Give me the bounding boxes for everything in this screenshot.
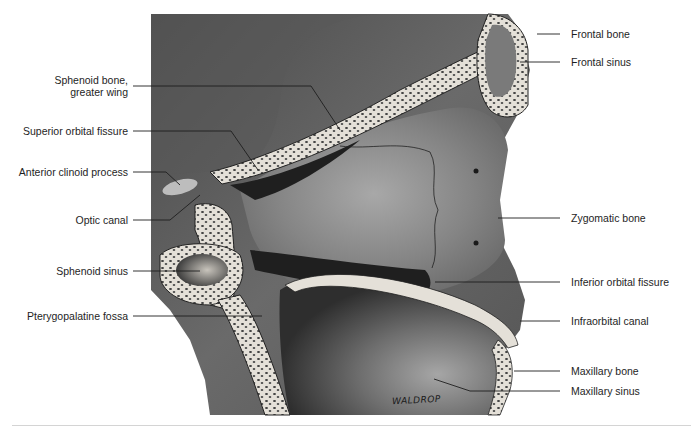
label-inferior-orbital-fissure: Inferior orbital fissure (571, 276, 669, 288)
label-maxillary-bone: Maxillary bone (571, 365, 639, 377)
label-anterior-clinoid-process: Anterior clinoid process (19, 166, 128, 178)
label-optic-canal: Optic canal (75, 214, 128, 226)
label-maxillary-sinus: Maxillary sinus (571, 385, 640, 397)
label-zygomatic-bone: Zygomatic bone (571, 212, 646, 224)
label-infraorbital-canal: Infraorbital canal (571, 315, 649, 327)
label-sphenoid-sinus: Sphenoid sinus (56, 265, 128, 277)
label-sphenoid-greater-wing: Sphenoid bone, greater wing (54, 74, 128, 98)
label-pterygopalatine-fossa: Pterygopalatine fossa (27, 310, 128, 322)
label-superior-orbital-fissure: Superior orbital fissure (23, 125, 128, 137)
anatomical-figure: Sphenoid bone, greater wing Superior orb… (0, 0, 691, 430)
label-frontal-sinus: Frontal sinus (571, 56, 631, 68)
bottom-separator (12, 425, 691, 426)
label-frontal-bone: Frontal bone (571, 28, 630, 40)
